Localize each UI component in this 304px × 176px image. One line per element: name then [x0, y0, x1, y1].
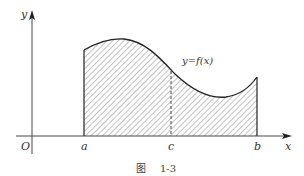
- caption-prefix: 图: [136, 163, 146, 174]
- caption-number: 1-3: [160, 163, 176, 174]
- curve-label: y=f(x): [181, 55, 213, 66]
- x-axis-label: x: [285, 140, 292, 153]
- point-c-label: c: [168, 140, 174, 153]
- shaded-area: [84, 30, 257, 136]
- y-axis-label: y: [20, 8, 28, 21]
- integral-area-diagram: y O a c b x y=f(x) 图 1-3: [0, 0, 304, 176]
- point-a-label: a: [81, 140, 88, 153]
- point-b-label: b: [254, 140, 261, 153]
- origin-label: O: [21, 140, 30, 153]
